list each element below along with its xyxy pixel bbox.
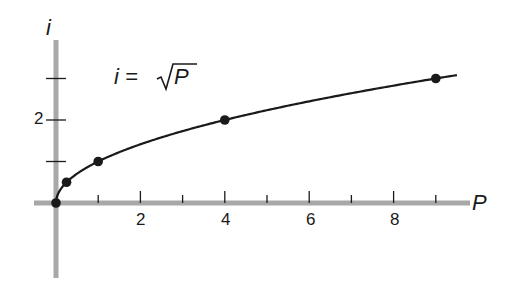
sqrt-chart [0,0,509,294]
x-axis-label: P [472,190,487,216]
x-tick-label-4: 4 [221,210,230,230]
data-markers [51,74,440,208]
data-point [431,74,441,84]
x-tick-label-2: 2 [136,210,145,230]
equation-rhs: P [174,64,189,90]
data-point [62,177,72,187]
sqrt-curve [56,75,457,203]
x-tick-label-8: 8 [390,210,399,230]
equation-lhs: i = [114,64,144,90]
data-point [93,157,103,167]
y-axis-label: i [46,15,51,41]
data-point [51,198,61,208]
x-tick-label-6: 6 [306,210,315,230]
data-point [220,115,230,125]
y-tick-label-2: 2 [34,109,43,129]
